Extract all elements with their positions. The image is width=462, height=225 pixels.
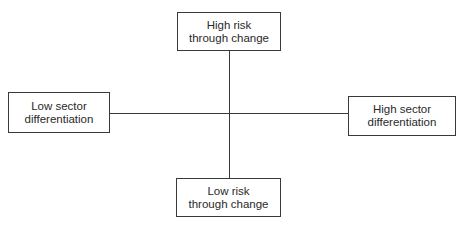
low-risk-label: Low risk through change [189,185,269,211]
horizontal-axis-line [110,113,348,114]
high-sector-differentiation-label: High sector differentiation [368,103,437,129]
vertical-axis-line [229,50,230,178]
high-risk-label: High risk through change [189,19,269,45]
low-risk-box: Low risk through change [176,178,281,217]
diagram-canvas: High risk through change Low sector diff… [0,0,462,225]
high-risk-box: High risk through change [177,12,281,51]
low-sector-differentiation-label: Low sector differentiation [25,100,94,126]
low-sector-differentiation-box: Low sector differentiation [8,92,110,133]
high-sector-differentiation-box: High sector differentiation [348,96,456,136]
